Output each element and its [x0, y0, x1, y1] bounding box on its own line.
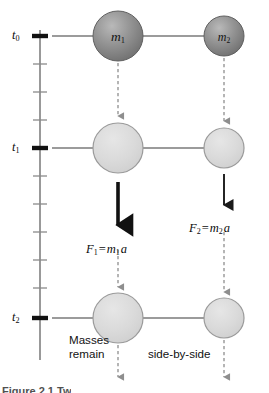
- time-axis: [32, 30, 48, 360]
- time-label-t1: t1: [12, 141, 20, 155]
- force-label-F1: F1=m1 a: [86, 243, 127, 257]
- note-masses-remain-line2: remain: [69, 347, 109, 361]
- sphere-m2-t1: [204, 128, 244, 168]
- figure-caption: Figure 2.1 Tw: [2, 385, 71, 393]
- mass-label-m2: m2: [206, 31, 242, 44]
- mass-spheres: [93, 11, 244, 343]
- time-label-t0: t0: [12, 29, 20, 43]
- sphere-m2-t2: [204, 298, 244, 338]
- note-masses-remain-line1: Masses: [69, 333, 109, 347]
- note-side-by-side: side-by-side: [148, 347, 211, 361]
- note-side-by-side-line1: side-by-side: [148, 347, 211, 361]
- note-masses-remain: Masses remain: [69, 333, 109, 360]
- physics-diagram-svg: [0, 0, 269, 393]
- mass-label-m1: m1: [98, 30, 138, 45]
- figure-canvas: t0 t1 t2 m1 m2 F1=m1 a F2=m2 a Masses re…: [0, 0, 269, 393]
- force-label-F2: F2=m2 a: [189, 222, 230, 236]
- time-label-t2: t2: [12, 311, 20, 325]
- sphere-m1-t1: [93, 123, 143, 173]
- horizontal-connectors: [52, 36, 204, 318]
